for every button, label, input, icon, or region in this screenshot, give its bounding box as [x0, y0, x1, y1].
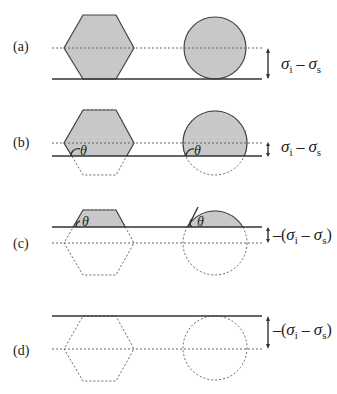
energy-label-a: σi – σs	[281, 54, 321, 75]
panel-c: (c) θ θ –(σi – σs)	[13, 207, 332, 275]
hexagon-crystal	[64, 15, 134, 79]
winterbottom-diagram: (a) σi – σs (b) θ θ σi – σs	[0, 0, 337, 394]
energy-label-c: –(σi – σs)	[272, 225, 332, 246]
hexagon-crystal	[64, 210, 134, 275]
hexagon-ghost	[64, 316, 134, 381]
theta-label: θ	[80, 143, 87, 158]
theta-label: θ	[197, 214, 204, 229]
panel-d: (d) –(σi – σs)	[13, 316, 332, 381]
hexagon-crystal	[64, 110, 134, 175]
theta-label: θ	[194, 143, 201, 158]
panel-a: (a) σi – σs	[13, 15, 321, 79]
panel-label-d: (d)	[13, 343, 30, 359]
panel-label-c: (c)	[13, 236, 29, 252]
circle-ghost	[183, 316, 247, 380]
panel-label-a: (a)	[13, 39, 29, 55]
energy-label-b: σi – σs	[281, 137, 321, 158]
theta-label: θ	[82, 214, 89, 229]
panel-b: (b) θ θ σi – σs	[13, 110, 321, 175]
panel-label-b: (b)	[13, 135, 30, 151]
energy-label-d: –(σi – σs)	[272, 320, 332, 341]
